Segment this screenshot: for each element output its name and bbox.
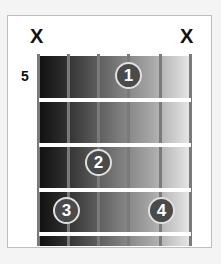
fret-line-4 bbox=[39, 232, 191, 236]
fret-line-3 bbox=[39, 188, 191, 192]
muted-string-1-marker: X bbox=[180, 26, 193, 46]
finger-dot-2: 2 bbox=[85, 149, 112, 176]
fret-line-1 bbox=[39, 98, 191, 102]
string-6 bbox=[37, 54, 40, 246]
muted-string-6-marker: X bbox=[30, 26, 43, 46]
string-1 bbox=[189, 54, 192, 246]
fret-line-2 bbox=[39, 143, 191, 147]
finger-dot-3: 3 bbox=[53, 197, 80, 224]
finger-dot-4: 4 bbox=[148, 197, 175, 224]
finger-dot-1: 1 bbox=[115, 62, 142, 89]
start-fret-label: 5 bbox=[21, 68, 29, 84]
